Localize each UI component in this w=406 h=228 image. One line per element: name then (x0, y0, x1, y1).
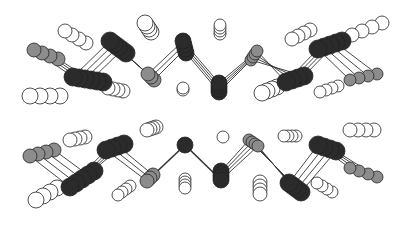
white-atom (63, 133, 77, 147)
white-atom (285, 32, 299, 46)
dark-atom (309, 40, 327, 58)
white-atom (28, 192, 44, 208)
gray-atom (23, 149, 37, 163)
white-atom (311, 177, 323, 189)
gray-atom (27, 43, 41, 57)
white-atom (140, 123, 154, 137)
crystal-structure-figure (0, 0, 406, 228)
white-atom (177, 82, 189, 94)
dark-atom (101, 32, 119, 50)
white-atom (58, 24, 72, 38)
white-atom (253, 187, 267, 201)
gray-atom (251, 45, 263, 57)
dark-atom (309, 136, 327, 154)
dark-atom (213, 172, 229, 188)
dark-atom (61, 178, 79, 196)
gray-atom (252, 140, 264, 152)
gray-atom (344, 162, 356, 174)
white-atom (214, 19, 226, 31)
dark-atom (64, 68, 82, 86)
dark-atom (177, 137, 193, 153)
chain-atom-layer (23, 32, 383, 201)
dark-atom (280, 174, 298, 192)
white-atom (343, 123, 357, 137)
white-atom (314, 86, 326, 98)
white-atom (278, 130, 290, 142)
white-atom (112, 189, 124, 201)
dark-atom (175, 33, 191, 49)
dark-atom (277, 73, 295, 91)
gray-atom (141, 67, 155, 81)
white-atom (179, 182, 191, 194)
dark-atom (211, 75, 227, 91)
white-atom (22, 88, 38, 104)
gray-atom (140, 174, 154, 188)
gray-atom (344, 74, 356, 86)
dark-atom (97, 141, 115, 159)
molecular-structure-diagram (0, 0, 406, 228)
white-atom (137, 15, 153, 31)
white-atom (217, 131, 229, 143)
white-atom (254, 85, 270, 101)
